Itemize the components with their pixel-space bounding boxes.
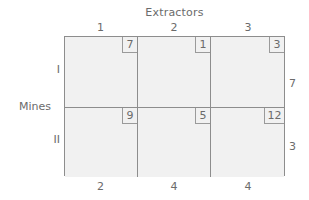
- column-header-3: 3: [211, 21, 285, 35]
- cell-i-3[interactable]: 3: [210, 37, 284, 107]
- supply-i: 7: [289, 77, 303, 91]
- column-group-title: Extractors: [64, 6, 285, 19]
- cost-box-ii-2: 5: [195, 108, 210, 124]
- demand-3: 4: [211, 180, 285, 194]
- cost-box-ii-3: 12: [264, 108, 284, 124]
- transportation-tableau: Extractors 1 2 3 Mines I II 7 1 3 9 5: [0, 0, 309, 200]
- supply-ii: 3: [289, 140, 303, 154]
- cell-i-2[interactable]: 1: [137, 37, 210, 107]
- column-header-2: 2: [137, 21, 211, 35]
- cell-i-1[interactable]: 7: [65, 37, 137, 107]
- cell-ii-1[interactable]: 9: [65, 108, 137, 177]
- row-header-column: I II: [44, 36, 60, 176]
- column-header-row: 1 2 3: [64, 21, 285, 35]
- row-header-i: I: [44, 63, 60, 77]
- cost-box-ii-1: 9: [122, 108, 137, 124]
- table-row: 7 1 3: [65, 37, 284, 107]
- column-header-1: 1: [64, 21, 137, 35]
- table-row: 9 5 12: [65, 107, 284, 177]
- demand-1: 2: [64, 180, 137, 194]
- cost-box-i-2: 1: [195, 37, 210, 53]
- tableau-grid: 7 1 3 9 5 12: [64, 36, 285, 176]
- cell-ii-3[interactable]: 12: [210, 108, 284, 177]
- demand-2: 4: [137, 180, 211, 194]
- cell-ii-2[interactable]: 5: [137, 108, 210, 177]
- supply-column: 7 3: [289, 36, 307, 176]
- demand-row: 2 4 4: [64, 180, 285, 194]
- cost-box-i-3: 3: [269, 37, 284, 53]
- cost-box-i-1: 7: [122, 37, 137, 53]
- row-header-ii: II: [44, 133, 60, 147]
